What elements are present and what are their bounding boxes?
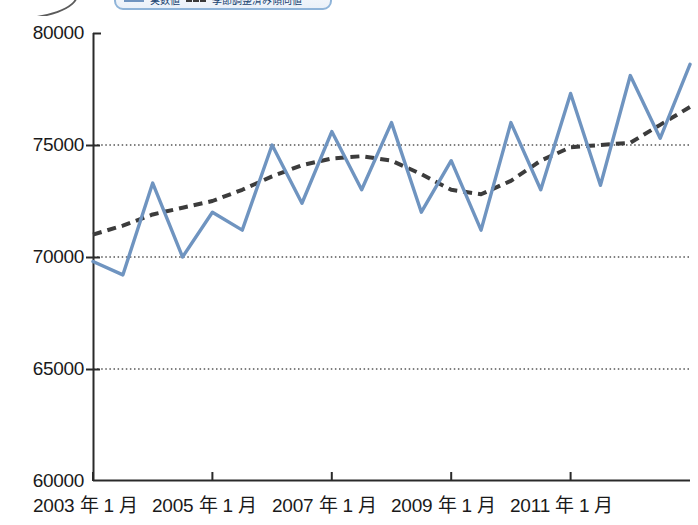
- x-axis-label-2007: 2007 年 1 月: [272, 490, 377, 517]
- y-axis-label-70000: 70000: [0, 246, 84, 268]
- x-axis-label-2005: 2005 年 1 月: [152, 490, 257, 517]
- chart-page: 実数値 季節調整済み傾向値: [0, 0, 698, 525]
- y-axis-label-80000: 80000: [0, 22, 84, 44]
- axes: [86, 33, 690, 481]
- chart-svg: [0, 0, 698, 525]
- y-axis-label-60000: 60000: [0, 470, 84, 492]
- x-axis-label-2009: 2009 年 1 月: [391, 490, 496, 517]
- y-axis-label-75000: 75000: [0, 134, 84, 156]
- chart-area: 80000 75000 70000 65000 60000 2003 年 1 月…: [0, 0, 698, 525]
- y-axis-label-65000: 65000: [0, 358, 84, 380]
- x-axis-label-2003: 2003 年 1 月: [33, 490, 138, 517]
- series-actual-line: [93, 64, 690, 275]
- x-axis-label-2011: 2011 年 1 月: [510, 490, 613, 517]
